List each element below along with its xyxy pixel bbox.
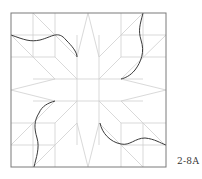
grid-lines <box>11 13 166 167</box>
curve-top-left <box>11 35 77 57</box>
curve-top-right <box>121 13 143 79</box>
curve-bottom-left <box>34 101 55 167</box>
figure-label: 2-8A <box>177 156 199 166</box>
quilt-block-diagram <box>0 0 202 179</box>
